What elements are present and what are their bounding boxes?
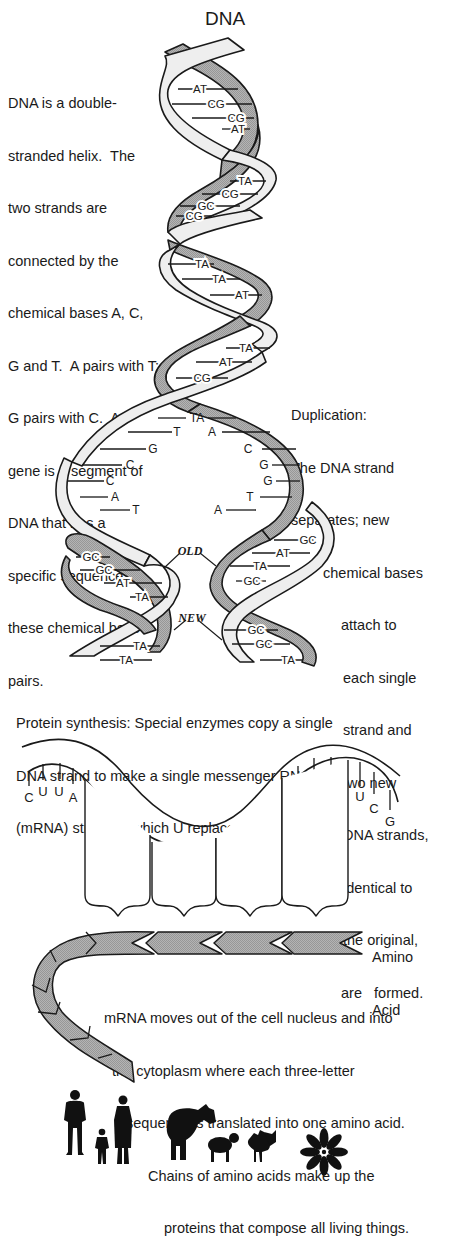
svg-text:G: G <box>259 458 268 472</box>
svg-text:AT: AT <box>116 577 130 589</box>
svg-text:AT: AT <box>231 123 245 135</box>
svg-text:C: C <box>244 442 253 456</box>
svg-text:TA: TA <box>239 342 253 354</box>
svg-text:A: A <box>208 425 216 439</box>
svg-text:C: C <box>106 474 115 488</box>
svg-text:T: T <box>246 490 254 504</box>
svg-text:U: U <box>355 789 364 804</box>
svg-text:AT: AT <box>193 83 207 95</box>
svg-text:GC: GC <box>243 575 260 587</box>
svg-text:A: A <box>111 490 119 504</box>
svg-text:CG: CG <box>193 372 210 384</box>
svg-text:TA: TA <box>190 411 204 425</box>
child-silhouette-icon <box>95 1129 109 1164</box>
svg-text:G: G <box>263 474 272 488</box>
svg-text:TA: TA <box>119 654 133 666</box>
organisms <box>64 1090 348 1176</box>
man-silhouette-icon <box>64 1090 86 1155</box>
svg-text:GC: GC <box>255 638 272 650</box>
old-label: OLD <box>178 544 203 558</box>
svg-text:AT: AT <box>276 547 290 559</box>
woman-silhouette-icon <box>114 1096 132 1165</box>
rooster-silhouette-icon <box>248 1130 276 1162</box>
svg-text:CG: CG <box>207 98 224 110</box>
svg-text:TA: TA <box>253 560 267 572</box>
trna-1 <box>85 780 150 916</box>
svg-text:GC: GC <box>247 624 264 636</box>
svg-text:TA: TA <box>195 258 209 270</box>
svg-text:G: G <box>148 442 157 456</box>
svg-text:G: G <box>385 814 395 829</box>
svg-text:TA: TA <box>212 273 226 285</box>
new-label: NEW <box>177 611 207 625</box>
svg-text:TA: TA <box>135 591 149 603</box>
amino-acid-2 <box>214 932 292 954</box>
svg-text:TA: TA <box>133 640 147 652</box>
amino-acid-1 <box>282 932 362 954</box>
svg-text:AT: AT <box>235 289 249 301</box>
svg-text:C: C <box>126 458 135 472</box>
svg-text:TA: TA <box>238 175 252 187</box>
svg-text:C: C <box>24 790 33 805</box>
trna-2 <box>152 838 216 916</box>
svg-text:GC: GC <box>299 534 316 546</box>
svg-text:A: A <box>69 790 78 805</box>
amino-acid-3 <box>146 932 222 954</box>
svg-text:CG: CG <box>185 210 202 222</box>
svg-text:C: C <box>369 801 378 816</box>
double-helix-upper <box>72 38 277 466</box>
trna-3 <box>216 778 282 916</box>
svg-text:T: T <box>132 503 140 517</box>
trna-adapters <box>85 760 348 916</box>
sheep-silhouette-icon <box>208 1133 239 1162</box>
svg-text:GC: GC <box>95 564 112 576</box>
svg-text:T: T <box>173 425 181 439</box>
svg-text:CG: CG <box>221 188 238 200</box>
svg-text:AT: AT <box>219 356 233 368</box>
svg-text:GC: GC <box>82 551 99 563</box>
flower-silhouette-icon <box>300 1128 348 1176</box>
trna-4 <box>282 760 348 916</box>
cow-silhouette-icon <box>167 1104 216 1160</box>
svg-text:U: U <box>38 784 47 799</box>
svg-text:TA: TA <box>281 654 295 666</box>
amino-acid-chain <box>33 932 362 1082</box>
svg-text:U: U <box>54 784 63 799</box>
translation-line: proteins that compose all living things. <box>104 1220 409 1238</box>
svg-text:A: A <box>214 503 222 517</box>
